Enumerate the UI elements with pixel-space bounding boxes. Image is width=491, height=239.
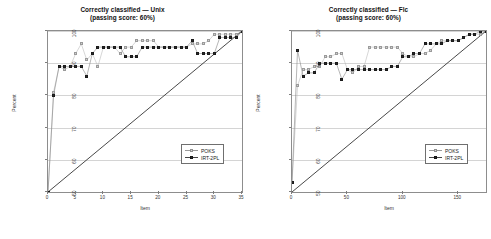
data-point-irt-2pl <box>291 181 294 184</box>
x-axis-tick-mark <box>241 191 242 194</box>
data-point-poks <box>302 68 305 71</box>
data-point-irt-2pl <box>168 46 171 49</box>
data-point-irt-2pl <box>135 55 138 58</box>
data-point-poks <box>146 39 149 42</box>
data-point-irt-2pl <box>401 55 404 58</box>
data-point-irt-2pl <box>141 46 144 49</box>
data-point-poks <box>124 46 127 49</box>
data-point-poks <box>412 55 415 58</box>
data-point-poks <box>390 46 393 49</box>
data-point-irt-2pl <box>446 39 449 42</box>
data-point-poks <box>135 39 138 42</box>
data-point-irt-2pl <box>213 52 216 55</box>
data-point-poks <box>213 33 216 36</box>
data-point-irt-2pl <box>229 36 232 39</box>
x-axis-tick-label: 150 <box>447 195 467 200</box>
legend-item-poks[interactable]: POKS <box>185 147 219 154</box>
chart-title-line1: Correctly classified — Flc <box>329 6 408 13</box>
y-axis-tick-label: 100 <box>72 30 77 60</box>
data-point-irt-2pl <box>374 68 377 71</box>
chart-legend[interactable]: POKSIRT-2PL <box>425 144 468 164</box>
y-axis-tick-mark <box>289 159 291 160</box>
data-point-irt-2pl <box>368 68 371 71</box>
y-axis-tick-label: 50 <box>316 191 321 221</box>
data-point-irt-2pl <box>185 46 188 49</box>
data-point-irt-2pl <box>52 94 55 97</box>
data-point-irt-2pl <box>468 33 471 36</box>
x-axis-tick-label: 5 <box>65 195 85 200</box>
legend-label: POKS <box>442 148 459 154</box>
data-point-irt-2pl <box>157 46 160 49</box>
data-point-irt-2pl <box>424 42 427 45</box>
y-axis-tick-mark <box>289 127 291 128</box>
y-axis-tick-mark <box>289 30 291 31</box>
data-point-irt-2pl <box>479 30 482 33</box>
data-point-irt-2pl <box>363 68 366 71</box>
legend-label: POKS <box>198 148 215 154</box>
x-axis-tick-label: 100 <box>392 195 412 200</box>
data-point-irt-2pl <box>80 65 83 68</box>
x-axis-tick-mark <box>158 191 159 194</box>
data-point-irt-2pl <box>91 52 94 55</box>
data-point-irt-2pl <box>85 75 88 78</box>
chart-legend[interactable]: POKSIRT-2PL <box>181 144 224 164</box>
x-axis-tick-mark <box>47 191 48 194</box>
y-axis-tick-label: 90 <box>316 62 321 92</box>
data-point-poks <box>396 46 399 49</box>
data-point-irt-2pl <box>58 65 61 68</box>
figure-canvas: Correctly classified — Unix (passing sco… <box>0 0 491 239</box>
data-point-irt-2pl <box>124 55 127 58</box>
legend-item-irt-2pl[interactable]: IRT-2PL <box>429 154 463 161</box>
y-axis-tick-label: 80 <box>316 94 321 124</box>
data-point-irt-2pl <box>302 75 305 78</box>
data-point-poks <box>130 46 133 49</box>
x-axis-tick-mark <box>75 191 76 194</box>
data-point-irt-2pl <box>180 46 183 49</box>
x-axis-tick-label: 50 <box>336 195 356 200</box>
data-point-irt-2pl <box>174 46 177 49</box>
x-axis-tick-label: 0 <box>37 195 57 200</box>
data-point-irt-2pl <box>130 55 133 58</box>
data-point-irt-2pl <box>451 39 454 42</box>
data-point-irt-2pl <box>96 46 99 49</box>
y-axis-tick-mark <box>45 30 47 31</box>
data-point-poks <box>429 49 432 52</box>
data-point-irt-2pl <box>485 30 488 33</box>
y-axis-label-flc: Percent <box>255 83 261 123</box>
data-point-irt-2pl <box>418 52 421 55</box>
y-axis-tick-label: 60 <box>316 158 321 188</box>
x-axis-tick-mark <box>402 191 403 194</box>
x-axis-tick-label: 25 <box>176 195 196 200</box>
x-axis-tick-label: 15 <box>120 195 140 200</box>
data-point-irt-2pl <box>107 46 110 49</box>
data-point-irt-2pl <box>207 52 210 55</box>
y-axis-tick-mark <box>45 159 47 160</box>
series-lines <box>292 31 486 192</box>
y-axis-tick-mark <box>45 94 47 95</box>
chart-title-line1: Correctly classified — Unix <box>80 6 164 13</box>
y-axis-tick-mark <box>45 62 47 63</box>
data-point-irt-2pl <box>379 68 382 71</box>
data-point-irt-2pl <box>296 49 299 52</box>
data-point-poks <box>80 42 83 45</box>
y-axis-tick-mark <box>45 127 47 128</box>
x-axis-tick-label: 10 <box>92 195 112 200</box>
chart-title-flc: Correctly classified — Flc (passing scor… <box>246 6 491 23</box>
legend-label: IRT-2PL <box>442 155 463 161</box>
data-point-irt-2pl <box>407 55 410 58</box>
y-axis-tick-mark <box>289 94 291 95</box>
data-point-poks <box>479 33 482 36</box>
legend-item-poks[interactable]: POKS <box>429 147 463 154</box>
x-axis-tick-mark <box>457 191 458 194</box>
chart-panel-flc: Correctly classified — Flc (passing scor… <box>246 0 491 239</box>
data-point-poks <box>329 55 332 58</box>
x-axis-tick-mark <box>130 191 131 194</box>
legend-item-irt-2pl[interactable]: IRT-2PL <box>185 154 219 161</box>
data-point-irt-2pl <box>457 39 460 42</box>
data-point-poks <box>96 65 99 68</box>
data-point-poks <box>207 39 210 42</box>
data-point-poks <box>379 46 382 49</box>
data-point-irt-2pl <box>113 46 116 49</box>
data-point-irt-2pl <box>351 68 354 71</box>
chart-subtitle-line2: (passing score: 60%) <box>0 14 245 22</box>
